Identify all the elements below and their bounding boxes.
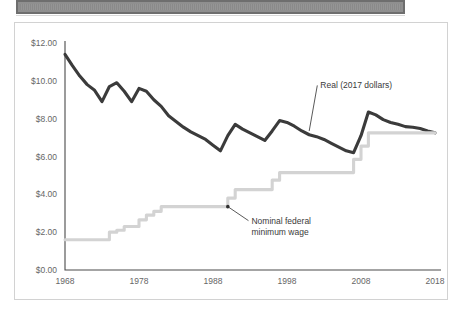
series-line-nominal [65, 133, 435, 240]
chart-svg: $0.00$2.00$4.00$6.00$8.00$10.00$12.00196… [14, 22, 448, 300]
nominal-series-annotation-label-line: Nominal federal [251, 216, 311, 226]
series-line-real [65, 54, 435, 152]
y-axis-tick-label: $10.00 [31, 76, 57, 86]
x-axis-tick-label: 1998 [278, 276, 297, 286]
x-axis-tick-label: 1968 [56, 276, 75, 286]
y-axis-tick-label: $0.00 [36, 265, 58, 275]
x-axis-tick-label: 1988 [204, 276, 223, 286]
minimum-wage-chart: $0.00$2.00$4.00$6.00$8.00$10.00$12.00196… [14, 22, 448, 300]
nominal-series-annotation-label-line: minimum wage [251, 227, 308, 237]
nominal-series-annotation-marker [226, 205, 230, 209]
y-axis-tick-label: $2.00 [36, 227, 58, 237]
nominal-series-annotation-leader-line [228, 207, 249, 221]
screenshot-root: $0.00$2.00$4.00$6.00$8.00$10.00$12.00196… [0, 0, 461, 313]
x-axis-tick-label: 2008 [352, 276, 371, 286]
x-axis-tick-label: 2018 [426, 276, 445, 286]
redacted-title-bar-fill [20, 4, 401, 10]
y-axis-tick-label: $12.00 [31, 38, 57, 48]
real-series-annotation-label: Real (2017 dollars) [320, 80, 392, 90]
y-axis-tick-label: $8.00 [36, 114, 58, 124]
nominal-series-annotation-label: Nominal federalminimum wage [251, 216, 311, 237]
redacted-title-bar [16, 0, 405, 14]
x-axis-tick-label: 1978 [130, 276, 149, 286]
y-axis-tick-label: $6.00 [36, 152, 58, 162]
y-axis-tick-label: $4.00 [36, 189, 58, 199]
real-series-annotation-label-line: Real (2017 dollars) [320, 80, 392, 90]
real-series-annotation-leader-line [309, 85, 317, 131]
